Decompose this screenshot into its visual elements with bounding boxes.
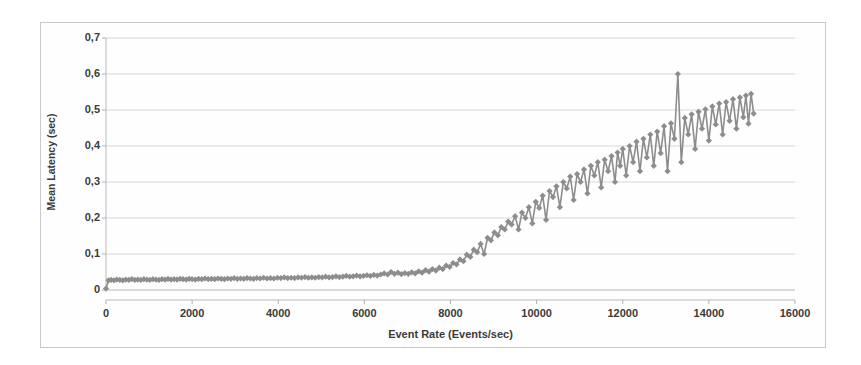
x-axis-title: Event Rate (Events/sec): [56, 328, 845, 340]
y-tick-label: 0,7: [60, 31, 100, 43]
x-tick-label: 10000: [507, 307, 567, 319]
y-tick-label: 0,5: [60, 103, 100, 115]
x-tick-label: 6000: [334, 307, 394, 319]
x-tick-label: 4000: [248, 307, 308, 319]
y-tick-label: 0,6: [60, 67, 100, 79]
axis-lines: [102, 38, 795, 304]
x-tick-label: 8000: [421, 307, 481, 319]
y-tick-label: 0,4: [60, 139, 100, 151]
x-tick-label: 0: [76, 307, 136, 319]
data-series-mean-latency: [103, 71, 757, 292]
x-tick-label: 2000: [162, 307, 222, 319]
y-tick-label: 0,1: [60, 247, 100, 259]
y-tick-label: 0,3: [60, 175, 100, 187]
y-tick-label: 0: [60, 283, 100, 295]
gridlines: [106, 38, 795, 290]
y-axis-title: Mean Latency (sec): [45, 87, 57, 237]
x-tick-label: 12000: [593, 307, 653, 319]
x-tick-label: 16000: [765, 307, 825, 319]
x-tick-label: 14000: [679, 307, 739, 319]
y-tick-label: 0,2: [60, 211, 100, 223]
